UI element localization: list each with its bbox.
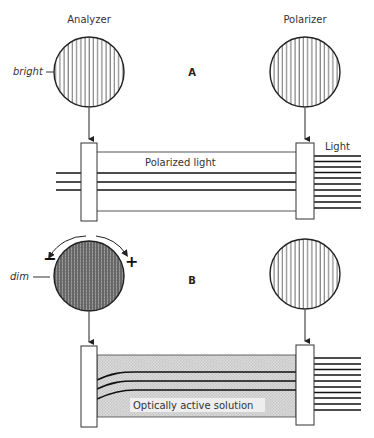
polarizer-disk-a	[270, 37, 340, 107]
incoming-light-rays	[314, 156, 361, 208]
analyzer-disk-dim	[54, 241, 124, 311]
analyzer-plate-a	[81, 143, 97, 221]
panel-a-label: A	[188, 67, 196, 78]
panel-b: − + dim B	[10, 236, 361, 427]
incoming-light-rays-b	[314, 358, 361, 410]
analyzer-label: Analyzer	[67, 14, 111, 25]
analyzer-disk-bright	[54, 37, 124, 107]
polarizer-label: Polarizer	[283, 14, 327, 25]
panel-a: Analyzer Polarizer bright A	[13, 14, 361, 221]
polarimeter-diagram: Analyzer Polarizer bright A	[0, 0, 374, 438]
polarized-light-label: Polarized light	[145, 157, 216, 168]
panel-b-label: B	[188, 275, 196, 286]
minus-sign: −	[43, 249, 56, 268]
bright-label: bright	[13, 66, 44, 77]
polarizer-plate-b	[296, 345, 314, 425]
dim-label: dim	[10, 271, 29, 282]
polarizer-plate-a	[296, 143, 314, 219]
light-label: Light	[325, 141, 350, 152]
solution-label: Optically active solution	[133, 400, 253, 411]
plus-sign: +	[125, 252, 138, 271]
analyzer-plate-b	[81, 346, 97, 427]
polarizer-disk-b	[270, 239, 340, 309]
